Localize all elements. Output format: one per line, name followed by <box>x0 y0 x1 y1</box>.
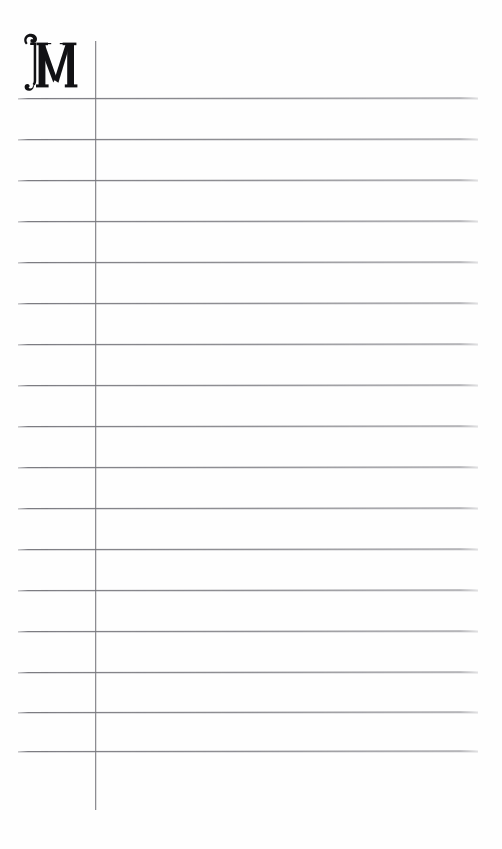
ruled-line <box>18 466 478 468</box>
notebook-page <box>0 0 502 849</box>
ruled-line <box>18 425 478 427</box>
ruled-line <box>18 384 478 386</box>
ruled-line <box>18 138 478 140</box>
ruled-line <box>18 548 478 550</box>
ruled-line <box>18 711 478 713</box>
ruled-line <box>18 220 478 222</box>
ruled-line <box>18 750 478 752</box>
dropcap-letter-m <box>18 30 80 100</box>
ruled-line <box>18 671 478 673</box>
ruled-line <box>18 630 478 632</box>
ruled-line <box>18 343 478 345</box>
ruled-line <box>18 97 478 99</box>
ruled-line <box>18 589 478 591</box>
ruled-line <box>18 261 478 263</box>
ruled-line <box>18 507 478 509</box>
ruled-line <box>18 179 478 181</box>
ruled-line <box>18 302 478 304</box>
